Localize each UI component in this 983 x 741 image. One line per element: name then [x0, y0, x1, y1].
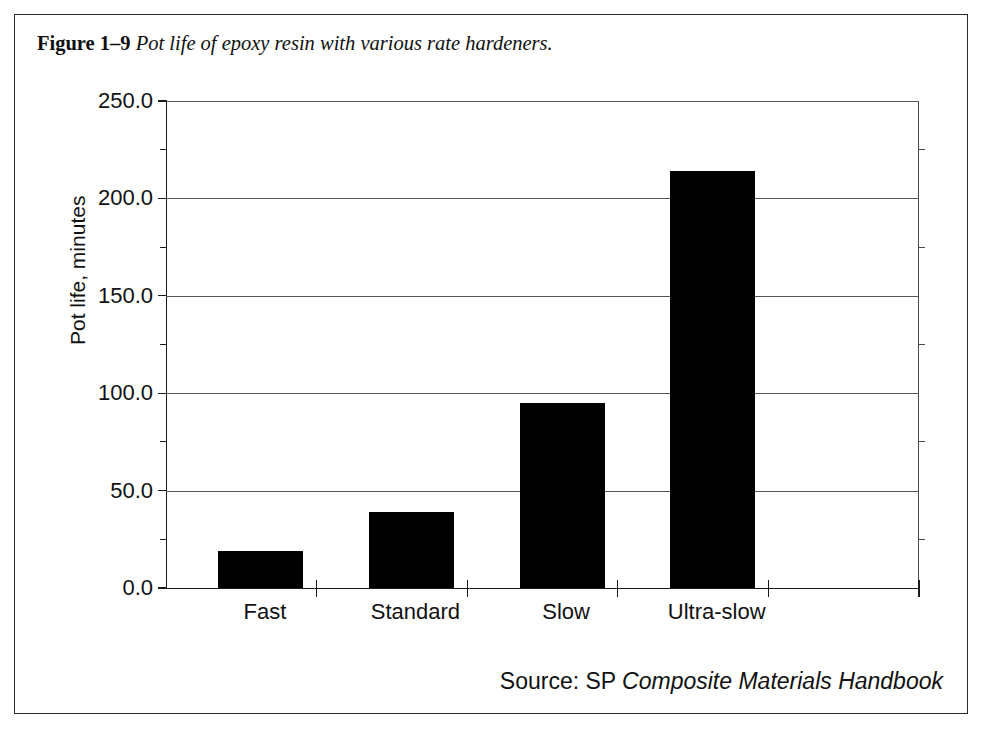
bar-ultra-slow [670, 171, 755, 588]
y-axis-minor-tick [160, 539, 167, 540]
gridline [166, 198, 919, 199]
bar-chart: Pot life, minutes 0.050.0100.0150.0200.0… [15, 15, 969, 715]
bar-fast [218, 551, 303, 588]
gridline [166, 101, 919, 102]
y-axis-tick [158, 198, 167, 199]
y-axis-minor-tick-right [918, 344, 925, 345]
x-axis-tick-label: Standard [371, 601, 460, 623]
y-axis-tick-label: 200.0 [98, 187, 153, 209]
source-title: Composite Materials Handbook [622, 668, 943, 694]
gridline [166, 393, 919, 394]
figure-container: Figure 1–9 Pot life of epoxy resin with … [14, 14, 968, 714]
y-axis-tick-label: 50.0 [110, 480, 153, 502]
x-axis-tick [316, 580, 317, 597]
x-axis-tick-label: Slow [542, 601, 590, 623]
y-axis-minor-tick-right [918, 441, 925, 442]
y-axis-tick [158, 490, 167, 491]
y-axis-label: Pot life, minutes [67, 196, 88, 345]
y-axis-minor-tick-right [918, 539, 925, 540]
x-axis-tick [467, 580, 468, 597]
x-axis-tick [768, 580, 769, 597]
y-axis-tick-label: 150.0 [98, 285, 153, 307]
y-axis-minor-tick [160, 441, 167, 442]
bar-standard [369, 512, 454, 588]
y-axis-tick [158, 587, 167, 588]
y-axis-minor-tick [160, 149, 167, 150]
plot-area: 0.050.0100.0150.0200.0250.0 FastStandard… [166, 101, 919, 588]
y-axis-minor-tick [160, 344, 167, 345]
source-note: Source: SP Composite Materials Handbook [500, 668, 943, 695]
y-axis-tick-label: 100.0 [98, 382, 153, 404]
y-axis-minor-tick [160, 247, 167, 248]
y-axis-tick [158, 100, 167, 101]
y-axis-minor-tick-right [918, 247, 925, 248]
y-axis-tick-label: 250.0 [98, 90, 153, 112]
x-axis-tick-label: Fast [243, 601, 286, 623]
bar-slow [520, 403, 605, 588]
y-axis-tick-label: 0.0 [122, 577, 153, 599]
y-axis-minor-tick-right [918, 149, 925, 150]
gridline [166, 296, 919, 297]
x-axis-tick-label: Ultra-slow [668, 601, 766, 623]
source-prefix: Source: SP [500, 668, 622, 694]
y-axis-tick [158, 295, 167, 296]
x-axis-tick [918, 580, 919, 597]
x-axis-tick [617, 580, 618, 597]
gridline [166, 588, 919, 589]
y-axis-tick [158, 393, 167, 394]
